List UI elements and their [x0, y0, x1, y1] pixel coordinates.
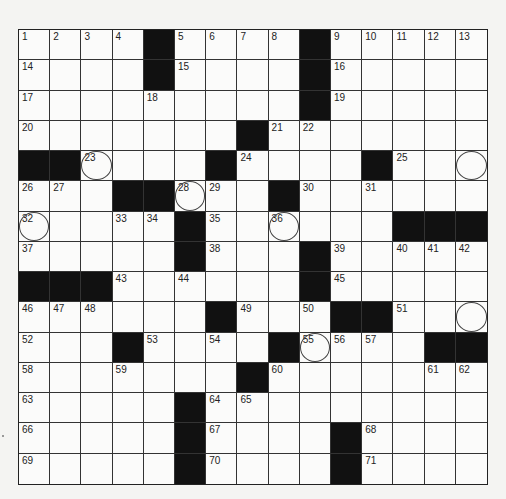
grid-cell[interactable] [237, 181, 268, 211]
grid-cell[interactable] [425, 393, 456, 423]
grid-cell[interactable] [456, 423, 487, 453]
grid-cell[interactable] [113, 91, 144, 121]
grid-cell[interactable] [237, 272, 268, 302]
grid-cell[interactable]: 65 [237, 393, 268, 423]
grid-cell[interactable]: 29 [206, 181, 237, 211]
grid-cell[interactable] [81, 60, 112, 90]
grid-cell[interactable] [237, 333, 268, 363]
grid-cell[interactable] [206, 363, 237, 393]
grid-cell[interactable] [206, 272, 237, 302]
grid-cell[interactable]: 24 [237, 151, 268, 181]
grid-cell[interactable] [362, 272, 393, 302]
grid-cell[interactable] [362, 121, 393, 151]
grid-cell[interactable]: 8 [269, 30, 300, 60]
grid-cell[interactable] [456, 272, 487, 302]
grid-cell[interactable] [456, 91, 487, 121]
grid-cell[interactable] [144, 454, 175, 484]
grid-cell[interactable] [300, 151, 331, 181]
grid-cell[interactable] [425, 423, 456, 453]
grid-cell[interactable] [50, 423, 81, 453]
grid-cell[interactable] [144, 302, 175, 332]
grid-cell[interactable]: 10 [362, 30, 393, 60]
grid-cell[interactable]: 39 [331, 242, 362, 272]
grid-cell[interactable]: 20 [19, 121, 50, 151]
grid-cell[interactable]: 45 [331, 272, 362, 302]
grid-cell[interactable]: 62 [456, 363, 487, 393]
grid-cell[interactable] [456, 454, 487, 484]
grid-cell[interactable] [50, 242, 81, 272]
grid-cell[interactable] [206, 60, 237, 90]
grid-cell[interactable] [331, 363, 362, 393]
grid-cell[interactable] [362, 212, 393, 242]
grid-cell[interactable] [269, 91, 300, 121]
grid-cell[interactable] [81, 212, 112, 242]
grid-cell[interactable] [393, 272, 424, 302]
grid-cell[interactable]: 41 [425, 242, 456, 272]
grid-cell[interactable] [175, 91, 206, 121]
grid-cell[interactable] [50, 333, 81, 363]
grid-cell[interactable]: 36 [269, 212, 300, 242]
grid-cell[interactable]: 16 [331, 60, 362, 90]
grid-cell[interactable]: 49 [237, 302, 268, 332]
grid-cell[interactable] [456, 181, 487, 211]
grid-cell[interactable]: 66 [19, 423, 50, 453]
grid-cell[interactable]: 68 [362, 423, 393, 453]
grid-cell[interactable]: 37 [19, 242, 50, 272]
grid-cell[interactable] [50, 121, 81, 151]
grid-cell[interactable]: 35 [206, 212, 237, 242]
grid-cell[interactable] [425, 181, 456, 211]
grid-cell[interactable] [425, 272, 456, 302]
grid-cell[interactable] [50, 454, 81, 484]
grid-cell[interactable] [456, 121, 487, 151]
grid-cell[interactable]: 1 [19, 30, 50, 60]
grid-cell[interactable]: 71 [362, 454, 393, 484]
grid-cell[interactable] [300, 393, 331, 423]
grid-cell[interactable]: 60 [269, 363, 300, 393]
grid-cell[interactable]: 64 [206, 393, 237, 423]
grid-cell[interactable] [81, 242, 112, 272]
grid-cell[interactable]: 9 [331, 30, 362, 60]
grid-cell[interactable] [393, 60, 424, 90]
grid-cell[interactable]: 70 [206, 454, 237, 484]
grid-cell[interactable] [50, 212, 81, 242]
grid-cell[interactable] [113, 242, 144, 272]
grid-cell[interactable]: 48 [81, 302, 112, 332]
grid-cell[interactable]: 28 [175, 181, 206, 211]
grid-cell[interactable]: 34 [144, 212, 175, 242]
grid-cell[interactable] [113, 151, 144, 181]
grid-cell[interactable]: 23 [81, 151, 112, 181]
grid-cell[interactable] [300, 423, 331, 453]
grid-cell[interactable] [456, 393, 487, 423]
grid-cell[interactable] [237, 91, 268, 121]
grid-cell[interactable] [425, 454, 456, 484]
grid-cell[interactable]: 27 [50, 181, 81, 211]
grid-cell[interactable] [144, 363, 175, 393]
grid-cell[interactable]: 57 [362, 333, 393, 363]
grid-cell[interactable] [206, 91, 237, 121]
grid-cell[interactable]: 44 [175, 272, 206, 302]
grid-cell[interactable] [300, 454, 331, 484]
grid-cell[interactable] [456, 60, 487, 90]
grid-cell[interactable] [144, 423, 175, 453]
grid-cell[interactable] [81, 454, 112, 484]
grid-cell[interactable]: 3 [81, 30, 112, 60]
grid-cell[interactable] [456, 151, 487, 181]
grid-cell[interactable]: 7 [237, 30, 268, 60]
grid-cell[interactable] [269, 242, 300, 272]
grid-cell[interactable]: 63 [19, 393, 50, 423]
grid-cell[interactable] [144, 242, 175, 272]
grid-cell[interactable] [175, 121, 206, 151]
grid-cell[interactable]: 11 [393, 30, 424, 60]
grid-cell[interactable] [393, 454, 424, 484]
grid-cell[interactable] [331, 121, 362, 151]
grid-cell[interactable] [113, 302, 144, 332]
grid-cell[interactable]: 52 [19, 333, 50, 363]
grid-cell[interactable] [331, 212, 362, 242]
grid-cell[interactable] [113, 60, 144, 90]
grid-cell[interactable] [50, 393, 81, 423]
grid-cell[interactable] [144, 393, 175, 423]
grid-cell[interactable]: 56 [331, 333, 362, 363]
grid-cell[interactable]: 67 [206, 423, 237, 453]
grid-cell[interactable] [81, 181, 112, 211]
grid-cell[interactable] [425, 91, 456, 121]
